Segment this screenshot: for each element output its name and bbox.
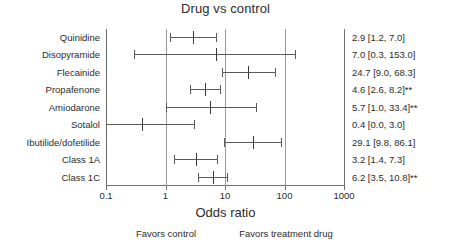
ci-cap-upper [217, 155, 218, 164]
point-estimate-marker [253, 136, 254, 149]
forest-row [106, 81, 345, 98]
estimate-value-ibutilide-dofetilide: 29.1 [9.8, 86.1] [352, 137, 451, 148]
ci-cap-lower [166, 103, 167, 112]
x-tick-label-1000: 1000 [333, 190, 354, 201]
ci-cap-lower [174, 155, 175, 164]
estimate-value-class-1c: 6.2 [3.5, 10.8]** [352, 172, 451, 183]
row-label-class-1a: Class 1A [0, 154, 100, 165]
point-estimate-marker [248, 66, 249, 79]
row-label-column: QuinidineDisopyramideFlecainidePropafeno… [0, 29, 100, 186]
estimate-value-class-1a: 3.2 [1.4, 7.3] [352, 154, 451, 165]
ci-cap-upper [216, 33, 217, 42]
ci-cap-lower [198, 173, 199, 182]
estimate-value-disopyramide: 7.0 [0.3, 153.0] [352, 49, 451, 60]
point-estimate-marker [196, 153, 197, 166]
estimate-value-flecainide: 24.7 [9.0, 68.3] [352, 67, 451, 78]
forest-plot-area [106, 29, 345, 186]
forest-row [106, 29, 345, 46]
estimate-value-sotalol: 0.4 [0.0, 3.0] [352, 119, 451, 130]
ci-cap-upper [194, 120, 195, 129]
estimate-value-amiodarone: 5.7 [1.0, 33.4]** [352, 102, 451, 113]
ci-cap-upper [295, 50, 296, 59]
row-label-flecainide: Flecainide [0, 67, 100, 78]
x-tick-label-100: 100 [277, 190, 293, 201]
favors-control-annotation: Favors control [136, 228, 196, 239]
row-label-disopyramide: Disopyramide [0, 49, 100, 60]
x-tick-label-0.1: 0.1 [99, 190, 112, 201]
point-estimate-marker [210, 101, 211, 114]
forest-row [106, 99, 345, 116]
point-estimate-marker [193, 31, 194, 44]
forest-row [106, 169, 345, 186]
point-estimate-marker [213, 171, 214, 184]
point-estimate-marker [205, 83, 206, 96]
row-label-sotalol: Sotalol [0, 119, 100, 130]
ci-cap-upper [256, 103, 257, 112]
forest-row [106, 134, 345, 151]
chart-title: Drug vs control [0, 1, 451, 16]
ci-cap-lower [134, 50, 135, 59]
confidence-interval-line [106, 124, 194, 125]
estimate-value-propafenone: 4.6 [2.6, 8.2]** [352, 84, 451, 95]
ci-cap-lower [224, 138, 225, 147]
ci-cap-upper [275, 68, 276, 77]
forest-row [106, 151, 345, 168]
x-axis-title: Odds ratio [106, 205, 345, 220]
forest-row [106, 64, 345, 81]
row-label-class-1c: Class 1C [0, 172, 100, 183]
estimate-value-quinidine: 2.9 [1.2, 7.0] [352, 32, 451, 43]
forest-row [106, 46, 345, 63]
point-estimate-marker [216, 48, 217, 61]
estimate-value-column: 2.9 [1.2, 7.0]7.0 [0.3, 153.0]24.7 [9.0,… [352, 29, 451, 186]
row-label-ibutilide-dofetilide: Ibutilide/dofetilide [0, 137, 100, 148]
ci-cap-upper [227, 173, 228, 182]
favors-treatment-annotation: Favors treatment drug [239, 228, 332, 239]
ci-cap-lower [222, 68, 223, 77]
ci-cap-upper [281, 138, 282, 147]
ci-cap-upper [220, 85, 221, 94]
x-tick-label-10: 10 [220, 190, 231, 201]
row-label-amiodarone: Amiodarone [0, 102, 100, 113]
forest-row [106, 116, 345, 133]
x-tick-label-1: 1 [163, 190, 168, 201]
point-estimate-marker [142, 118, 143, 131]
row-label-quinidine: Quinidine [0, 32, 100, 43]
row-label-propafenone: Propafenone [0, 84, 100, 95]
ci-cap-lower [190, 85, 191, 94]
ci-cap-lower [170, 33, 171, 42]
